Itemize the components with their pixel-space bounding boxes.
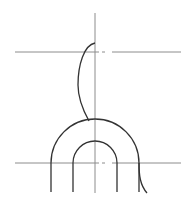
lower-break-curve (139, 163, 147, 193)
upper-break-curve (78, 43, 95, 121)
technical-drawing (0, 0, 191, 203)
